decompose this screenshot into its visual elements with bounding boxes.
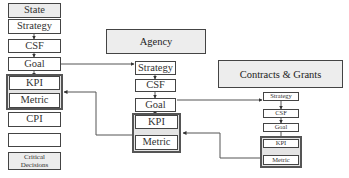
state-empty-box [8,133,61,147]
cg-csf-label: CSF [275,110,287,117]
agency-csf-label: CSF [146,80,165,91]
state-strategy-box: Strategy [8,19,61,34]
state-header-box: State [8,3,61,18]
state-strategy-label: Strategy [17,21,52,32]
agency-kpi-label: KPI [148,117,165,128]
contracts-grants-header-box: Contracts & Grants [218,60,343,88]
state-kpi-box: KPI [9,76,60,90]
critical-line-1: Critical [24,153,45,161]
state-metric-label: Metric [21,95,49,106]
state-critical-decisions-box: Critical Decisions [8,152,61,170]
critical-line-2: Decisions [21,161,49,169]
state-csf-label: CSF [25,41,44,52]
cg-goal-box: Goal [263,123,299,132]
agency-strategy-box: Strategy [135,61,176,75]
contracts-grants-header-label: Contracts & Grants [240,69,322,80]
agency-header-box: Agency [106,29,206,54]
state-cpi-box: CPI [8,112,61,127]
agency-csf-box: CSF [135,79,176,92]
agency-goal-label: Goal [145,100,165,111]
state-label: State [24,5,45,16]
agency-strategy-label: Strategy [138,63,173,74]
cg-strategy-label: Strategy [270,93,292,100]
state-cpi-label: CPI [26,114,42,125]
cg-metric-box: Metric [263,155,299,165]
state-goal-label: Goal [24,59,44,70]
cg-kpi-label: KPI [276,140,286,147]
cg-kpi-box: KPI [263,139,299,148]
agency-metric-label: Metric [143,137,171,148]
state-csf-box: CSF [8,39,61,53]
agency-metric-box: Metric [135,135,178,150]
cg-metric-label: Metric [272,157,289,164]
agency-header-label: Agency [140,36,173,47]
cg-goal-label: Goal [275,124,288,131]
agency-kpi-box: KPI [135,115,178,129]
agency-goal-box: Goal [135,98,176,112]
cg-strategy-box: Strategy [263,92,299,101]
state-goal-box: Goal [8,57,61,71]
state-kpi-label: KPI [26,78,43,89]
cg-csf-box: CSF [263,109,299,118]
state-metric-box: Metric [9,93,60,108]
